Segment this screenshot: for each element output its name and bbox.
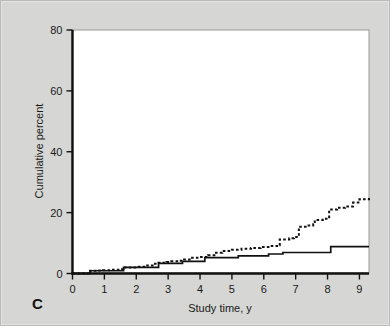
x-tick-label: 7 xyxy=(293,283,299,295)
x-tick-label: 2 xyxy=(133,283,139,295)
x-tick-label: 3 xyxy=(165,283,171,295)
x-tick-label: 4 xyxy=(197,283,203,295)
x-tick-label: 0 xyxy=(69,283,75,295)
chart-canvas: 0123456789020406080 Study time, y Cumula… xyxy=(1,1,390,326)
y-axis-title: Cumulative percent xyxy=(33,104,45,199)
y-tick-label: 40 xyxy=(50,146,62,158)
figure-panel-c: 0123456789020406080 Study time, y Cumula… xyxy=(0,0,390,326)
y-tick-label: 60 xyxy=(50,85,62,97)
x-tick-label: 1 xyxy=(101,283,107,295)
y-tick-label: 0 xyxy=(56,268,62,280)
plot-area-background xyxy=(72,30,369,273)
x-tick-label: 9 xyxy=(356,283,362,295)
x-tick-label: 5 xyxy=(229,283,235,295)
y-tick-label: 80 xyxy=(50,24,62,36)
y-tick-label: 20 xyxy=(50,207,62,219)
x-axis-title: Study time, y xyxy=(188,302,252,314)
x-tick-label: 6 xyxy=(261,283,267,295)
panel-label: C xyxy=(32,295,43,312)
x-tick-label: 8 xyxy=(324,283,330,295)
